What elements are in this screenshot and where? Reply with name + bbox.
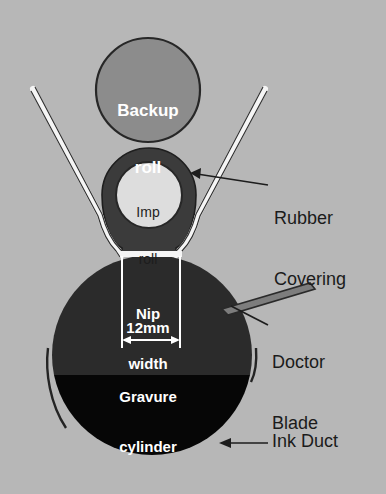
doctor-blade-label-line1: Doctor [272,352,325,372]
backup-roll-label-line1: Backup [0,101,296,120]
ink-duct-label: Ink Duct [272,431,338,451]
impression-roll-label-line1: Imp [0,205,296,221]
gravure-cylinder-label-line1: Gravure [0,389,296,406]
rubber-covering-label-line2: Covering [274,269,346,289]
doctor-blade-label-line2: Blade [272,413,325,433]
diagram-canvas: Backup roll Imp roll Nip width 12mm Grav… [0,0,386,494]
gravure-cylinder-label-line2: cylinder [0,439,296,456]
rubber-covering-label: Rubber Covering [274,168,346,329]
impression-roll-label-line2: roll [0,252,296,268]
gravure-cylinder-label: Gravure cylinder [0,355,296,489]
nip-dimension-value: 12mm [0,320,296,337]
rubber-covering-label-line1: Rubber [274,208,346,228]
